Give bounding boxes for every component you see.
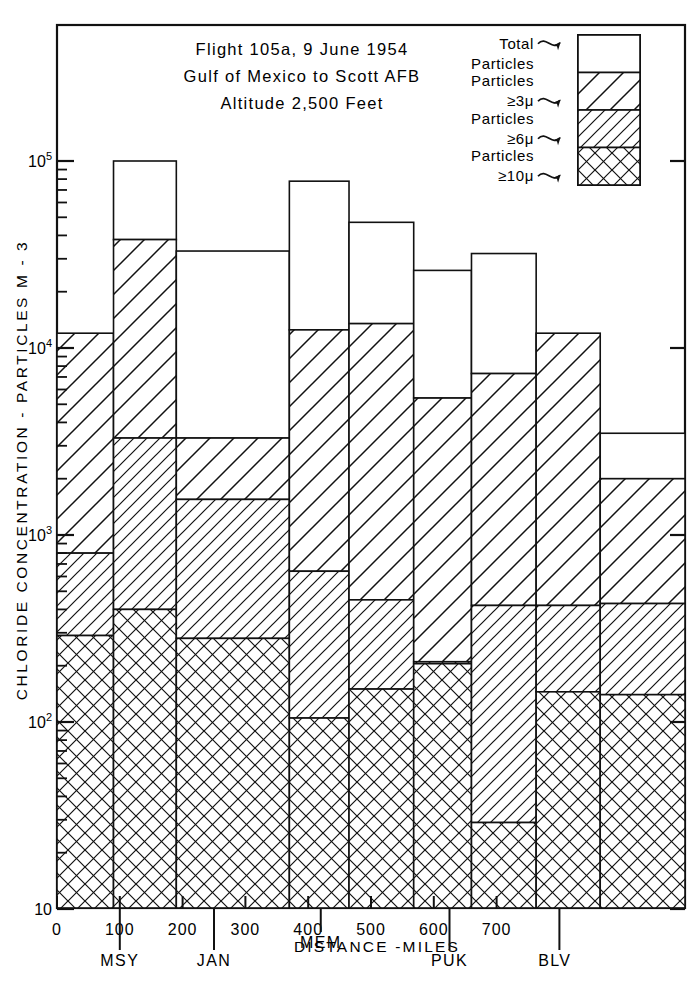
bar-segment-p10 <box>414 664 472 908</box>
bar-segment-p10 <box>471 823 536 908</box>
bar-group <box>600 433 685 908</box>
title-line-3: Altitude 2,500 Feet <box>220 94 383 112</box>
bar-segment-total <box>114 161 177 240</box>
station-label-puk: PUK <box>431 952 468 969</box>
legend-swatch-2 <box>578 110 640 148</box>
legend-label-1-line2: ≥3μ <box>507 92 534 109</box>
bar-segment-p3 <box>471 374 536 606</box>
bar-group <box>349 222 414 908</box>
bar-segment-p6 <box>471 605 536 822</box>
bar-segment-p6 <box>176 499 289 638</box>
bar-segment-p10 <box>349 689 414 908</box>
bar-group <box>289 181 349 908</box>
bar-group <box>114 161 177 908</box>
legend-swatch-0 <box>578 35 640 73</box>
legend-label-1-line1: Particles <box>471 72 534 89</box>
bar-segment-p6 <box>349 600 414 689</box>
x-tick-label: 600 <box>419 921 449 938</box>
chart-figure: Flight 105a, 9 June 1954 Gulf of Mexico … <box>0 0 688 992</box>
bar-segment-p3 <box>176 438 289 499</box>
x-tick-label: 500 <box>356 921 386 938</box>
station-label-mem: MEM <box>300 934 342 951</box>
y-tick-label: 10 <box>34 901 52 918</box>
bar-group <box>536 333 600 908</box>
station-label-jan: JAN <box>197 952 231 969</box>
bar-group <box>471 254 536 908</box>
bar-segment-p10 <box>176 638 289 908</box>
bar-segment-p6 <box>536 605 600 691</box>
bar-segment-p6 <box>600 604 685 695</box>
legend-label-0-line2: Particles <box>471 55 534 72</box>
bar-segment-total <box>414 270 472 398</box>
x-tick-label: 0 <box>52 921 62 938</box>
chart-svg: Flight 105a, 9 June 1954 Gulf of Mexico … <box>0 0 688 992</box>
bar-segment-p3 <box>114 240 177 438</box>
bar-segment-p3 <box>536 333 600 605</box>
bar-segment-p10 <box>57 636 114 908</box>
bar-segment-total <box>176 251 289 438</box>
bar-segment-p6 <box>289 571 349 718</box>
bar-segment-p3 <box>349 324 414 600</box>
bar-group <box>414 270 472 908</box>
bar-group <box>176 251 289 908</box>
legend-label-3-line2: ≥10μ <box>498 167 534 184</box>
bar-segment-p10 <box>600 695 685 908</box>
title-line-1: Flight 105a, 9 June 1954 <box>196 40 409 58</box>
x-tick-label: 700 <box>482 921 512 938</box>
bar-segment-p10 <box>114 609 177 908</box>
legend-label-0-line1: Total <box>499 35 534 52</box>
bar-segment-p3 <box>414 398 472 662</box>
bar-segment-p3 <box>600 479 685 604</box>
legend-swatch-3 <box>578 148 640 186</box>
bar-segment-p6 <box>114 438 177 609</box>
legend-swatch-1 <box>578 73 640 111</box>
bar-segment-p6 <box>57 553 114 635</box>
bar-segment-total <box>349 222 414 323</box>
bar-segment-total <box>471 254 536 374</box>
bar-segment-p10 <box>536 692 600 908</box>
bar-group <box>57 333 114 908</box>
y-axis-title: CHLORIDE CONCENTRATION - PARTICLES M - 3 <box>13 240 30 701</box>
legend-label-2-line1: Particles <box>471 110 534 127</box>
station-label-blv: BLV <box>538 952 571 969</box>
bar-segment-p10 <box>289 718 349 908</box>
bar-segment-total <box>289 181 349 330</box>
bar-segment-p3 <box>289 330 349 571</box>
bar-segment-total <box>600 433 685 478</box>
x-tick-label: 300 <box>231 921 261 938</box>
station-label-msy: MSY <box>100 952 139 969</box>
legend-label-2-line2: ≥6μ <box>507 130 534 147</box>
title-line-2: Gulf of Mexico to Scott AFB <box>184 67 421 85</box>
x-tick-label: 200 <box>168 921 198 938</box>
legend-label-3-line1: Particles <box>471 147 534 164</box>
